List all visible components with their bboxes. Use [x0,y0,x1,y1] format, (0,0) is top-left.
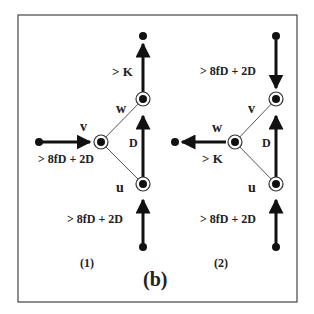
node-left-dot [171,138,179,146]
node-label-v: v [248,101,255,116]
node-bottom-dot [139,243,147,251]
edge-label-left: > K [202,151,224,166]
edge-label-top: > 8fD + 2D [200,64,256,78]
diagram-canvas: > K w v D > 8fD + 2D u > 8fD + 2D (1) > … [0,0,314,314]
edge-label-top: > K [112,64,134,79]
node-v [94,135,108,149]
node-u [136,177,150,191]
edge-label-left: > 8fD + 2D [38,152,94,166]
node-label-u: u [116,180,124,195]
node-w [136,92,150,106]
panel-caption-1: (1) [80,256,94,270]
node-v [269,92,283,106]
panel-1: > K w v D > 8fD + 2D u > 8fD + 2D (1) [35,32,150,270]
edge-label-bottom: > 8fD + 2D [200,212,256,226]
node-u [269,177,283,191]
node-label-u: u [248,180,256,195]
node-bottom-dot [272,243,280,251]
node-label-w: w [212,120,223,135]
edge-label-mid: D [262,136,271,150]
edge-label-mid: D [129,136,138,150]
node-label-v: v [80,119,87,134]
node-top-dot [139,32,147,40]
node-top-dot [272,32,280,40]
node-w [228,135,242,149]
panel-caption-2: (2) [214,256,228,270]
edge-label-bottom: > 8fD + 2D [67,212,123,226]
figure-label: (b) [143,268,167,291]
node-left-dot [35,138,43,146]
node-label-w: w [116,101,127,116]
panel-2: > 8fD + 2D v w D > K u > 8fD + 2D (2) [171,32,283,270]
